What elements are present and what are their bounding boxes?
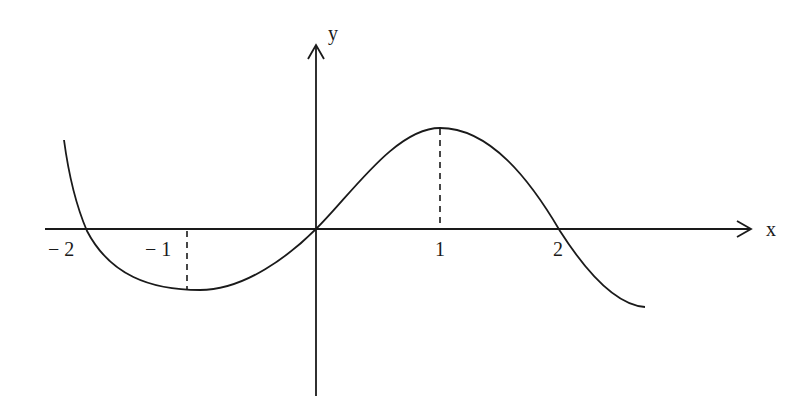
tick-label-neg2: − 2 (48, 238, 74, 260)
function-graph: y x − 2 − 1 1 2 (0, 0, 799, 412)
tick-label-1: 1 (435, 238, 445, 260)
tick-label-neg1: − 1 (145, 238, 171, 260)
function-curve (64, 128, 645, 307)
tick-label-2: 2 (553, 238, 563, 260)
x-axis-label: x (766, 218, 776, 240)
y-axis-label: y (328, 22, 338, 45)
